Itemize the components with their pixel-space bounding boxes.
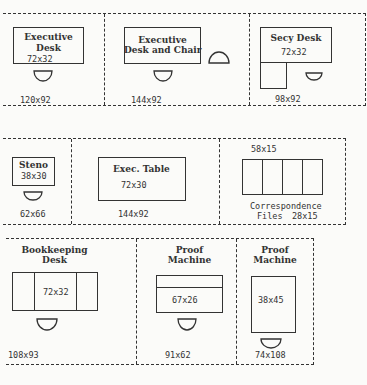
secy-desk-size: 72x32 [281,47,307,57]
bookkeeping-label-2: Desk [12,255,97,266]
executive-desk-label-2: Desk [13,43,84,54]
executive-desk-chair-area: 144x92 [131,95,162,105]
proof-machine-2-size: 38x45 [258,295,284,305]
row-1-divider-2 [249,14,250,105]
files-size: 28x15 [292,211,318,221]
files-overall-size: 58x15 [251,144,277,154]
chair-icon [177,318,197,331]
files-label-2: Files [257,211,283,222]
executive-desk-label-1: Executive [13,32,84,43]
exec-table-size: 72x30 [121,180,147,190]
secy-desk-label: Secy Desk [260,33,332,44]
steno-area: 62x66 [20,209,46,219]
proof-machine-1-divider [156,287,223,288]
proof-machine-1-label-2: Machine [156,255,223,266]
executive-desk-chair-label-2: Desk and Chair [124,45,201,56]
row-1-divider-1 [104,14,105,105]
executive-desk-area: 120x92 [20,95,51,105]
proof-machine-2-label-2: Machine [246,255,304,266]
chair-icon [153,70,173,82]
row-3-divider-1 [136,239,137,364]
secy-desk-area: 98x92 [275,94,301,104]
row-3-divider-2 [236,239,237,364]
desk-pedestal-divider [76,272,77,311]
proof-machine-2-area: 74x108 [255,350,286,360]
desk-pedestal-divider [34,272,35,311]
chair-icon [33,70,53,82]
files-cabinet-divider [262,159,263,195]
files-cabinet-divider [282,159,283,195]
exec-table-area: 144x92 [118,209,149,219]
row-2-divider-2 [219,139,220,224]
chair-icon [36,318,58,331]
chair-icon [305,72,323,81]
chair-icon [260,338,282,349]
executive-desk-size: 72x32 [27,54,53,64]
proof-machine-1-size: 67x26 [172,295,198,305]
files-cabinet-divider [302,159,303,195]
proof-machine-1-area: 91x62 [165,350,191,360]
exec-table-label: Exec. Table [113,164,170,175]
secy-desk-return [260,62,287,89]
steno-label: Steno [12,160,55,171]
row-2-divider-1 [71,139,72,224]
steno-size: 38x30 [21,171,47,181]
bookkeeping-size: 72x32 [43,287,69,297]
guest-chair-icon [208,51,230,64]
bookkeeping-area: 108x93 [8,350,39,360]
proof-machine-1 [156,275,223,313]
chair-icon [23,191,43,201]
